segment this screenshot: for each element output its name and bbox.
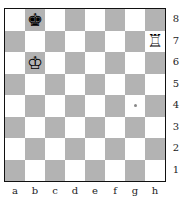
rank-label: 2 bbox=[170, 142, 182, 153]
square-d8[interactable] bbox=[65, 9, 85, 31]
square-d7[interactable] bbox=[65, 31, 85, 53]
square-e1[interactable] bbox=[85, 160, 105, 182]
square-h2[interactable] bbox=[145, 138, 165, 160]
square-e2[interactable] bbox=[85, 138, 105, 160]
square-b5[interactable] bbox=[25, 74, 45, 96]
square-marker-dot bbox=[134, 104, 137, 107]
square-f2[interactable] bbox=[105, 138, 125, 160]
square-c7[interactable] bbox=[45, 31, 65, 53]
black-king-icon[interactable]: ♚ bbox=[27, 11, 43, 29]
square-h1[interactable] bbox=[145, 160, 165, 182]
white-rook-icon[interactable]: ♖ bbox=[147, 32, 163, 50]
square-h8[interactable] bbox=[145, 9, 165, 31]
square-c1[interactable] bbox=[45, 160, 65, 182]
square-b1[interactable] bbox=[25, 160, 45, 182]
rank-label: 1 bbox=[170, 164, 182, 175]
square-f6[interactable] bbox=[105, 52, 125, 74]
square-d1[interactable] bbox=[65, 160, 85, 182]
file-label: e bbox=[85, 185, 105, 196]
square-a8[interactable] bbox=[5, 9, 25, 31]
square-b2[interactable] bbox=[25, 138, 45, 160]
square-a2[interactable] bbox=[5, 138, 25, 160]
square-f4[interactable] bbox=[105, 95, 125, 117]
file-label: g bbox=[125, 185, 145, 196]
square-a1[interactable] bbox=[5, 160, 25, 182]
square-a7[interactable] bbox=[5, 31, 25, 53]
file-label: b bbox=[25, 185, 45, 196]
file-label: h bbox=[145, 185, 165, 196]
rank-label: 8 bbox=[170, 13, 182, 24]
rank-label: 5 bbox=[170, 78, 182, 89]
square-h5[interactable] bbox=[145, 74, 165, 96]
file-label: f bbox=[105, 185, 125, 196]
square-h6[interactable] bbox=[145, 52, 165, 74]
square-b3[interactable] bbox=[25, 117, 45, 139]
square-d4[interactable] bbox=[65, 95, 85, 117]
rank-label: 3 bbox=[170, 121, 182, 132]
square-e8[interactable] bbox=[85, 9, 105, 31]
square-c5[interactable] bbox=[45, 74, 65, 96]
square-e7[interactable] bbox=[85, 31, 105, 53]
square-g3[interactable] bbox=[125, 117, 145, 139]
square-b6[interactable]: ♔ bbox=[25, 52, 45, 74]
rank-label: 4 bbox=[170, 99, 182, 110]
file-label: c bbox=[45, 185, 65, 196]
square-b7[interactable] bbox=[25, 31, 45, 53]
file-label: a bbox=[5, 185, 25, 196]
square-c2[interactable] bbox=[45, 138, 65, 160]
square-e4[interactable] bbox=[85, 95, 105, 117]
square-d6[interactable] bbox=[65, 52, 85, 74]
square-g1[interactable] bbox=[125, 160, 145, 182]
square-g7[interactable] bbox=[125, 31, 145, 53]
square-g8[interactable] bbox=[125, 9, 145, 31]
file-label: d bbox=[65, 185, 85, 196]
square-c3[interactable] bbox=[45, 117, 65, 139]
square-d3[interactable] bbox=[65, 117, 85, 139]
square-h4[interactable] bbox=[145, 95, 165, 117]
square-c8[interactable] bbox=[45, 9, 65, 31]
square-g5[interactable] bbox=[125, 74, 145, 96]
square-a6[interactable] bbox=[5, 52, 25, 74]
white-king-icon[interactable]: ♔ bbox=[27, 54, 43, 72]
square-a3[interactable] bbox=[5, 117, 25, 139]
square-e6[interactable] bbox=[85, 52, 105, 74]
chess-board: ♚♖♔ bbox=[4, 8, 166, 182]
square-f1[interactable] bbox=[105, 160, 125, 182]
square-g2[interactable] bbox=[125, 138, 145, 160]
square-c6[interactable] bbox=[45, 52, 65, 74]
square-h7[interactable]: ♖ bbox=[145, 31, 165, 53]
square-h3[interactable] bbox=[145, 117, 165, 139]
square-a4[interactable] bbox=[5, 95, 25, 117]
square-f7[interactable] bbox=[105, 31, 125, 53]
square-e5[interactable] bbox=[85, 74, 105, 96]
square-f8[interactable] bbox=[105, 9, 125, 31]
rank-label: 6 bbox=[170, 56, 182, 67]
rank-label: 7 bbox=[170, 35, 182, 46]
square-d2[interactable] bbox=[65, 138, 85, 160]
square-g4[interactable] bbox=[125, 95, 145, 117]
square-b4[interactable] bbox=[25, 95, 45, 117]
square-b8[interactable]: ♚ bbox=[25, 9, 45, 31]
square-f3[interactable] bbox=[105, 117, 125, 139]
square-d5[interactable] bbox=[65, 74, 85, 96]
square-f5[interactable] bbox=[105, 74, 125, 96]
square-a5[interactable] bbox=[5, 74, 25, 96]
square-c4[interactable] bbox=[45, 95, 65, 117]
square-e3[interactable] bbox=[85, 117, 105, 139]
square-g6[interactable] bbox=[125, 52, 145, 74]
